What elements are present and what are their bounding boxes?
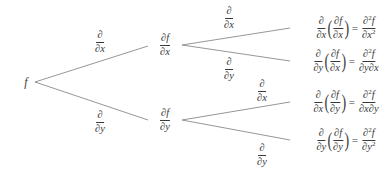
right-paren: ) bbox=[341, 92, 346, 112]
frac-den: ∂x bbox=[313, 103, 323, 115]
right-paren: ) bbox=[344, 18, 349, 38]
frac-num: ∂ bbox=[258, 79, 265, 92]
denominator: ∂y bbox=[362, 141, 372, 152]
frac-den: ∂x bbox=[330, 62, 340, 74]
edge-f-to-dfdx bbox=[35, 46, 148, 82]
frac-num: ∂ bbox=[258, 143, 265, 156]
frac-num: ∂ bbox=[318, 128, 325, 141]
right-paren: ) bbox=[344, 130, 349, 150]
left-paren: ( bbox=[327, 18, 332, 38]
edge-label-d-dy: ∂∂y bbox=[223, 57, 235, 81]
frac-den: ∂y bbox=[95, 123, 105, 135]
frac-den: ∂y bbox=[160, 121, 170, 133]
frac-num: ∂f bbox=[160, 33, 170, 46]
frac-den: ∂y bbox=[224, 70, 234, 82]
frac-num: ∂f bbox=[160, 108, 170, 121]
denominator: ∂y∂x bbox=[359, 62, 379, 73]
variable: f bbox=[372, 48, 375, 59]
frac-den: ∂y bbox=[333, 141, 343, 153]
node-df-dx: ∂f∂x bbox=[159, 33, 171, 57]
frac-num: ∂f bbox=[333, 16, 343, 29]
frac-num: ∂f bbox=[330, 90, 340, 103]
frac-den: ∂x bbox=[316, 29, 326, 41]
frac-den: ∂x bbox=[160, 46, 170, 58]
frac-num: ∂ bbox=[315, 90, 322, 103]
denominator: ∂x bbox=[362, 29, 372, 40]
denominator: ∂x∂y bbox=[359, 103, 379, 114]
frac-den: ∂y bbox=[313, 62, 323, 74]
edge-f-to-dfdy bbox=[35, 82, 148, 120]
edge-dfdy-to-dxy bbox=[182, 102, 290, 120]
result-d2f-dydx: ∂∂y ( ∂f∂x ) = ∂2f∂y∂x bbox=[312, 49, 379, 73]
result-d2f-dy2: ∂∂y ( ∂f∂y ) = ∂2f∂y2 bbox=[315, 128, 376, 152]
result-d2f-dx2: ∂∂x ( ∂f∂x ) = ∂2f∂x2 bbox=[315, 16, 376, 40]
result-d2f-dxdy: ∂∂x ( ∂f∂y ) = ∂2f∂x∂y bbox=[312, 90, 379, 114]
left-paren: ( bbox=[324, 51, 329, 71]
frac-den: ∂y bbox=[257, 156, 267, 168]
frac-num: ∂f bbox=[333, 128, 343, 141]
right-paren: ) bbox=[341, 51, 346, 71]
edge-dfdx-to-dyx bbox=[182, 45, 290, 61]
variable: f bbox=[372, 15, 375, 26]
edge-label-d-dx: ∂∂x bbox=[256, 79, 268, 103]
frac-num: ∂ bbox=[318, 16, 325, 29]
left-paren: ( bbox=[327, 130, 332, 150]
frac-num: ∂ bbox=[96, 110, 103, 123]
frac-num: ∂f bbox=[330, 49, 340, 62]
variable: f bbox=[372, 89, 375, 100]
variable: f bbox=[372, 127, 375, 138]
exponent: 2 bbox=[372, 28, 376, 36]
edge-dfdx-to-dxx bbox=[182, 28, 290, 45]
frac-num: ∂ bbox=[225, 6, 232, 19]
root-label: f bbox=[24, 76, 27, 88]
frac-den: ∂x bbox=[95, 43, 105, 55]
edge-label-d-dx: ∂∂x bbox=[223, 6, 235, 30]
frac-den: ∂y bbox=[330, 103, 340, 115]
frac-den: ∂x bbox=[224, 19, 234, 31]
equals-sign: = bbox=[349, 97, 355, 108]
equals-sign: = bbox=[349, 56, 355, 67]
edge-label-d-dx: ∂∂x bbox=[94, 30, 106, 54]
edge-label-d-dy: ∂∂y bbox=[256, 143, 268, 167]
frac-num: ∂ bbox=[315, 49, 322, 62]
frac-num: ∂ bbox=[96, 30, 103, 43]
frac-num: ∂ bbox=[225, 57, 232, 70]
equals-sign: = bbox=[352, 23, 358, 34]
left-paren: ( bbox=[324, 92, 329, 112]
frac-den: ∂y bbox=[316, 141, 326, 153]
equals-sign: = bbox=[352, 135, 358, 146]
node-df-dy: ∂f∂y bbox=[159, 108, 171, 132]
exponent: 2 bbox=[372, 140, 376, 148]
edge-dfdy-to-dyy bbox=[182, 120, 290, 140]
edge-label-d-dy: ∂∂y bbox=[94, 110, 106, 134]
frac-den: ∂x bbox=[333, 29, 343, 41]
root-node-f: f bbox=[24, 76, 27, 88]
frac-den: ∂x bbox=[257, 92, 267, 104]
